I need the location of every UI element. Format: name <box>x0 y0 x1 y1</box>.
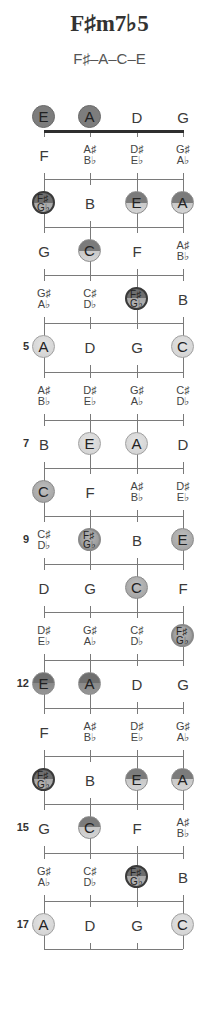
note-cell-f13-s3[interactable]: D♯E♭ <box>117 714 157 750</box>
note-cell-f16-s2[interactable]: C♯D♭ <box>70 859 110 895</box>
note-name: D <box>178 437 189 452</box>
note-cell-f6-s1[interactable]: A♯B♭ <box>24 378 64 414</box>
note-name: A <box>84 109 94 124</box>
flat-name: D♭ <box>83 299 96 310</box>
fret-line-2 <box>44 227 183 228</box>
note-cell-f3-s3[interactable]: F <box>117 233 157 269</box>
chord-tone-dot-f2-s1[interactable]: F♯G♭ <box>32 191 55 214</box>
note-cell-f1-s1[interactable]: F <box>24 137 64 173</box>
note-cell-f15-s4[interactable]: A♯B♭ <box>163 810 203 846</box>
chord-tone-dot-f12-s1[interactable]: E <box>32 672 55 695</box>
note-cell-f16-s1[interactable]: G♯A♭ <box>24 859 64 895</box>
note-cell-f4-s1[interactable]: G♯A♭ <box>24 281 64 317</box>
note-cell-f5-s3[interactable]: G <box>117 329 157 365</box>
note-cell-f15-s3[interactable]: F <box>117 810 157 846</box>
note-cell-f7-s1[interactable]: B <box>24 426 64 462</box>
enharmonic-label: C♯D♭ <box>37 529 50 551</box>
note-cell-f14-s2[interactable]: B <box>70 762 110 798</box>
flat-name: B♭ <box>177 828 190 839</box>
note-cell-f8-s3[interactable]: A♯B♭ <box>117 474 157 510</box>
enharmonic-label: D♯E♭ <box>130 144 143 166</box>
flat-name: D♭ <box>130 636 143 647</box>
chord-tone-dot-f2-s4[interactable]: A <box>171 191 194 214</box>
flat-name: B♭ <box>84 155 97 166</box>
note-name: A <box>38 339 48 354</box>
note-cell-f11-s1[interactable]: D♯E♭ <box>24 618 64 654</box>
note-cell-f6-s3[interactable]: G♯A♭ <box>117 378 157 414</box>
fret-number-9: 9 <box>9 533 29 545</box>
chord-tone-dot-f5-s4[interactable]: C <box>171 335 194 358</box>
note-cell-f1-s4[interactable]: G♯A♭ <box>163 137 203 173</box>
chord-tone-dot-f10-s3[interactable]: C <box>125 576 148 599</box>
note-cell-f7-s4[interactable]: D <box>163 426 203 462</box>
open-string-d[interactable]: D <box>117 99 157 135</box>
chord-tone-dot-f14-s4[interactable]: A <box>171 768 194 791</box>
note-cell-f12-s3[interactable]: D <box>117 666 157 702</box>
note-cell-f17-s2[interactable]: D <box>70 907 110 943</box>
note-cell-f17-s3[interactable]: G <box>117 907 157 943</box>
chord-tone-dot-f16-s3[interactable]: F♯G♭ <box>125 865 148 888</box>
note-cell-f8-s2[interactable]: F <box>70 474 110 510</box>
fret-line-17 <box>44 949 183 950</box>
chord-tone-dot-f15-s2[interactable]: C <box>78 816 101 839</box>
note-cell-f3-s4[interactable]: A♯B♭ <box>163 233 203 269</box>
note-cell-f5-s2[interactable]: D <box>70 329 110 365</box>
note-cell-f12-s4[interactable]: G <box>163 666 203 702</box>
chord-tone-dot-f9-s4[interactable]: E <box>171 528 194 551</box>
note-cell-f9-s3[interactable]: B <box>117 522 157 558</box>
note-cell-f13-s1[interactable]: F <box>24 714 64 750</box>
note-cell-f1-s2[interactable]: A♯B♭ <box>70 137 110 173</box>
chord-tone-dot-f9-s2[interactable]: F♯G♭ <box>78 528 101 551</box>
note-cell-f10-s4[interactable]: F <box>163 570 203 606</box>
chord-tone-dot-f7-s2[interactable]: E <box>78 432 101 455</box>
chord-tone-dot-f12-s2[interactable]: A <box>78 672 101 695</box>
note-cell-f13-s2[interactable]: A♯B♭ <box>70 714 110 750</box>
note-cell-f16-s4[interactable]: B <box>163 859 203 895</box>
chord-tone-dot-f17-s1[interactable]: A <box>32 913 55 936</box>
note-cell-f10-s1[interactable]: D <box>24 570 64 606</box>
open-string-a[interactable]: A <box>78 105 101 128</box>
open-string-e[interactable]: E <box>32 105 55 128</box>
note-cell-f9-s1[interactable]: C♯D♭ <box>24 522 64 558</box>
chord-tone-dot-f3-s2[interactable]: C <box>78 239 101 262</box>
note-name: E <box>131 772 141 787</box>
note-name: G <box>177 110 189 125</box>
note-cell-f11-s2[interactable]: G♯A♭ <box>70 618 110 654</box>
chord-tone-dot-f7-s3[interactable]: A <box>125 432 148 455</box>
note-name: F <box>85 485 94 500</box>
chord-tone-dot-f11-s4[interactable]: F♯G♭ <box>171 624 194 647</box>
flat-name: G♭ <box>37 203 50 212</box>
note-name: B <box>39 437 49 452</box>
note-cell-f1-s3[interactable]: D♯E♭ <box>117 137 157 173</box>
note-cell-f4-s4[interactable]: B <box>163 281 203 317</box>
chord-tone-dot-f8-s1[interactable]: C <box>32 480 55 503</box>
note-cell-f13-s4[interactable]: G♯A♭ <box>163 714 203 750</box>
note-name: B <box>85 773 95 788</box>
enharmonic-label: A♯B♭ <box>84 721 97 743</box>
chord-tone-dot-f2-s3[interactable]: E <box>125 191 148 214</box>
note-cell-f4-s2[interactable]: C♯D♭ <box>70 281 110 317</box>
note-cell-f10-s2[interactable]: G <box>70 570 110 606</box>
chord-tone-dot-f17-s4[interactable]: C <box>171 913 194 936</box>
note-cell-f8-s4[interactable]: D♯E♭ <box>163 474 203 510</box>
note-cell-f6-s4[interactable]: C♯D♭ <box>163 378 203 414</box>
enharmonic-label: A♯B♭ <box>177 817 190 839</box>
note-cell-f11-s3[interactable]: C♯D♭ <box>117 618 157 654</box>
note-cell-f3-s1[interactable]: G <box>24 233 64 269</box>
open-string-g[interactable]: G <box>163 99 203 135</box>
flat-name: E♭ <box>130 155 143 166</box>
enharmonic-label: A♯B♭ <box>84 144 97 166</box>
fret-line-15 <box>44 853 183 854</box>
enharmonic-label: G♯A♭ <box>83 625 97 647</box>
note-cell-f15-s1[interactable]: G <box>24 810 64 846</box>
chord-tone-dot-f14-s3[interactable]: E <box>125 768 148 791</box>
chord-tone-dot-f5-s1[interactable]: A <box>32 335 55 358</box>
chord-tone-dot-f14-s1[interactable]: F♯G♭ <box>32 768 55 791</box>
note-name: D <box>132 677 143 692</box>
note-cell-f6-s2[interactable]: D♯E♭ <box>70 378 110 414</box>
fret-line-10 <box>44 612 183 613</box>
note-cell-f2-s2[interactable]: B <box>70 185 110 221</box>
chord-tone-dot-f4-s3[interactable]: F♯G♭ <box>125 287 148 310</box>
enharmonic-label: C♯D♭ <box>176 385 189 407</box>
note-name: B <box>178 292 188 307</box>
